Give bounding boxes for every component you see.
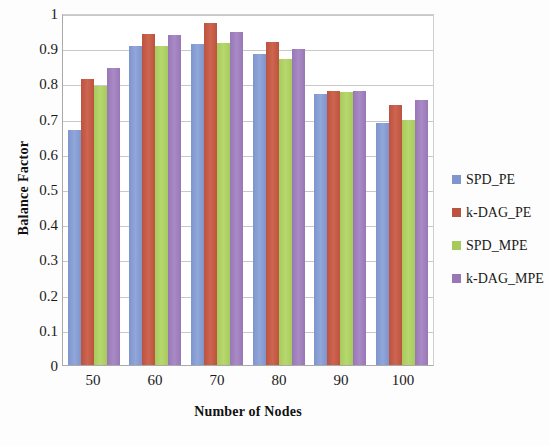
- chart-legend: SPD_PEk-DAG_PESPD_MPEk-DAG_MPE: [452, 163, 548, 295]
- y-axis-tick-labels: 10.90.80.70.60.50.40.30.20.10: [22, 14, 58, 366]
- y-axis-tick-label: 0: [22, 359, 58, 374]
- legend-item[interactable]: SPD_PE: [452, 163, 548, 196]
- bar[interactable]: [279, 59, 292, 365]
- y-axis-tick-label: 1: [22, 7, 58, 22]
- bar-group: [376, 15, 428, 365]
- x-axis-tick-label: 60: [126, 372, 184, 398]
- bar-group: [314, 15, 366, 365]
- y-axis-tick-label: 0.5: [22, 183, 58, 198]
- bar[interactable]: [389, 105, 402, 365]
- bar[interactable]: [129, 46, 142, 365]
- y-axis-tick-label: 0.3: [22, 253, 58, 268]
- legend-color-swatch-icon: [452, 175, 461, 184]
- bar[interactable]: [253, 54, 266, 365]
- bar[interactable]: [314, 94, 327, 365]
- bar[interactable]: [217, 43, 230, 365]
- x-axis-tick-labels: 5060708090100: [62, 372, 434, 398]
- bar[interactable]: [68, 130, 81, 365]
- y-axis-tick-label: 0.8: [22, 77, 58, 92]
- legend-item-label: k-DAG_MPE: [466, 271, 544, 287]
- x-axis-title: Number of Nodes: [62, 404, 434, 420]
- bar[interactable]: [353, 91, 366, 365]
- bar[interactable]: [168, 35, 181, 365]
- bar[interactable]: [81, 79, 94, 365]
- bar-group: [191, 15, 243, 365]
- y-axis-tick-label: 0.4: [22, 218, 58, 233]
- legend-item[interactable]: SPD_MPE: [452, 229, 548, 262]
- legend-color-swatch-icon: [452, 208, 461, 217]
- legend-color-swatch-icon: [452, 241, 461, 250]
- bar[interactable]: [191, 44, 204, 365]
- legend-item[interactable]: k-DAG_MPE: [452, 262, 548, 295]
- legend-item-label: SPD_MPE: [466, 238, 527, 254]
- y-axis-tick-label: 0.7: [22, 112, 58, 127]
- bar[interactable]: [204, 23, 217, 365]
- x-axis-tick-label: 80: [250, 372, 308, 398]
- y-axis-tick-label: 0.9: [22, 42, 58, 57]
- bar[interactable]: [266, 42, 279, 365]
- y-axis-tick-label: 0.2: [22, 288, 58, 303]
- y-axis-tick-label: 0.1: [22, 323, 58, 338]
- x-axis-tick-label: 70: [188, 372, 246, 398]
- bar[interactable]: [376, 123, 389, 365]
- bar[interactable]: [327, 91, 340, 365]
- bar-group: [129, 15, 181, 365]
- bar[interactable]: [155, 46, 168, 365]
- bar[interactable]: [142, 34, 155, 365]
- bar[interactable]: [402, 120, 415, 365]
- bar-groups: [63, 15, 433, 365]
- x-axis-tick-label: 50: [64, 372, 122, 398]
- bar[interactable]: [292, 49, 305, 365]
- legend-item-label: SPD_PE: [466, 172, 515, 188]
- plot-area: [62, 14, 434, 366]
- bar[interactable]: [94, 86, 107, 365]
- bar[interactable]: [107, 68, 120, 365]
- y-axis-tick-label: 0.6: [22, 147, 58, 162]
- bar-group: [68, 15, 120, 365]
- legend-item[interactable]: k-DAG_PE: [452, 196, 548, 229]
- bar-group: [253, 15, 305, 365]
- x-axis-tick-label: 100: [374, 372, 432, 398]
- bar[interactable]: [340, 92, 353, 365]
- x-axis-tick-label: 90: [312, 372, 370, 398]
- bar[interactable]: [230, 32, 243, 365]
- bar[interactable]: [415, 100, 428, 365]
- bar-chart-figure: Balance Factor 10.90.80.70.60.50.40.30.2…: [0, 0, 549, 446]
- legend-item-label: k-DAG_PE: [466, 205, 531, 221]
- legend-color-swatch-icon: [452, 274, 461, 283]
